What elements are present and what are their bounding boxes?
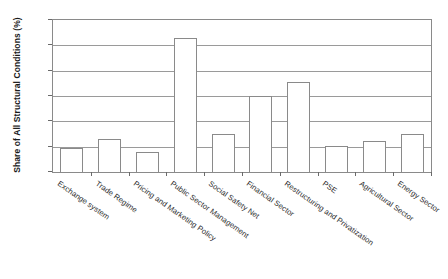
bar-chart: Share of All Structural Conditions (%) 0…: [0, 0, 448, 279]
y-axis-tick-mark: [48, 44, 52, 45]
x-axis-label: PSE: [320, 179, 338, 195]
x-axis-ticks: [53, 20, 431, 172]
x-axis-labels: Exchange systemTrade RegimePricing and M…: [52, 175, 448, 279]
y-axis-tick-mark: [48, 146, 52, 147]
y-axis-title: Share of All Structural Conditions (%): [12, 10, 22, 180]
y-axis-tick-mark: [48, 95, 52, 96]
y-axis-tick-mark: [48, 120, 52, 121]
y-axis-tick-mark: [48, 19, 52, 20]
y-axis-tick-mark: [48, 70, 52, 71]
plot-area: [52, 19, 432, 173]
y-axis-tick-mark: [48, 171, 52, 172]
